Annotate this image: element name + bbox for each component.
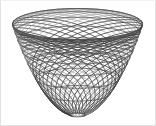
mesh-top-rim [13,9,143,40]
mesh-line [13,9,143,40]
mesh-line [45,85,110,101]
wireframe-figure: 3D wireframe mesh of a downward-opening … [0,0,156,126]
mesh-helix-group-counterclockwise [13,9,143,117]
wireframe-surface-canvas [0,0,156,126]
